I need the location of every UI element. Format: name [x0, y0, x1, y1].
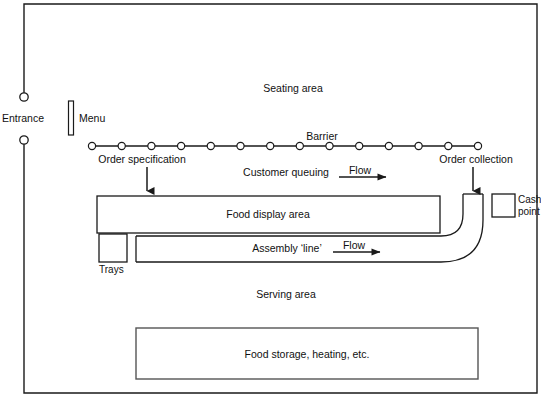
barrier-label: Barrier — [306, 130, 338, 142]
cafeteria-layout-diagram: Entrance Menu Seating area Barrier Order… — [0, 0, 541, 404]
order-collection-label: Order collection — [439, 153, 513, 165]
trays-label: Trays — [99, 264, 124, 276]
diagram-canvas — [0, 0, 541, 404]
cash-point-label-line1: Cash — [518, 194, 541, 206]
trays-box — [99, 234, 127, 262]
food-storage-label: Food storage, heating, etc. — [245, 348, 370, 360]
cash-point-box — [492, 194, 515, 217]
flow-label-upper: Flow — [349, 164, 371, 176]
food-display-area-label: Food display area — [226, 208, 309, 220]
assembly-line-label: Assembly ‘line’ — [252, 242, 321, 254]
order-specification-label: Order specification — [98, 153, 186, 165]
cash-point-label-line2: point — [518, 206, 540, 218]
menu-label: Menu — [79, 112, 105, 124]
seating-area-label: Seating area — [263, 82, 323, 94]
menu-board — [69, 101, 74, 135]
barrier-queue-line — [88, 142, 481, 149]
customer-queuing-label: Customer queuing — [243, 166, 329, 178]
entrance-label: Entrance — [2, 112, 44, 124]
serving-area-label: Serving area — [256, 288, 316, 300]
flow-label-lower: Flow — [343, 239, 365, 251]
